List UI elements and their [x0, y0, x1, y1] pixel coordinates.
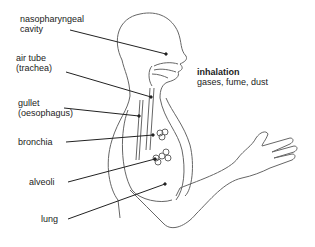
label-alveoli: alveoli — [29, 177, 55, 187]
inhalation-heading: inhalation — [197, 67, 268, 77]
label-line: (trachea) — [16, 63, 52, 73]
label-line: air tube — [16, 53, 52, 63]
label-nasopharyngeal-cavity: nasopharyngeal cavity — [20, 14, 84, 34]
label-gullet: gullet (oesophagus) — [18, 98, 73, 118]
inhalation-subtext: gases, fume, dust — [197, 77, 268, 87]
respiratory-diagram: nasopharyngeal cavity air tube (trachea)… — [0, 0, 315, 247]
label-bronchia: bronchia — [18, 137, 53, 147]
label-trachea: air tube (trachea) — [16, 53, 52, 73]
body-outline-drawing — [0, 0, 315, 247]
label-line: (oesophagus) — [18, 108, 73, 118]
label-line: nasopharyngeal — [20, 14, 84, 24]
label-line: cavity — [20, 24, 84, 34]
label-lung: lung — [41, 214, 58, 224]
inhalation-annotation: inhalation gases, fume, dust — [197, 67, 268, 87]
label-line: gullet — [18, 98, 73, 108]
